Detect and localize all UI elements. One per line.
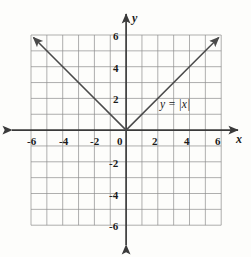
x-axis-label: x	[236, 133, 242, 145]
x-tick-label-neg2: -2	[90, 136, 99, 147]
y-tick-label-neg6: -6	[109, 221, 118, 232]
x-tick-label-neg4: -4	[59, 136, 68, 147]
y-tick-label-2: 2	[113, 94, 119, 105]
y-tick-label-4: 4	[113, 63, 119, 74]
equation-label: y = |x|	[160, 99, 190, 111]
x-tick-label-zero: 0	[117, 136, 123, 147]
x-tick-label-neg6: -6	[27, 136, 36, 147]
y-tick-label-neg2: -2	[109, 158, 118, 169]
graph-figure: -6 -4 -2 0 2 4 6 6 4 2 -2 -4 -6 x y y = …	[0, 0, 251, 257]
y-axis-label: y	[132, 12, 137, 24]
coordinate-plane-svg	[0, 0, 251, 257]
x-tick-label-2: 2	[152, 136, 158, 147]
y-tick-label-neg4: -4	[109, 190, 118, 201]
x-tick-label-6: 6	[215, 136, 221, 147]
y-tick-label-6: 6	[113, 31, 119, 42]
x-tick-label-4: 4	[184, 136, 190, 147]
